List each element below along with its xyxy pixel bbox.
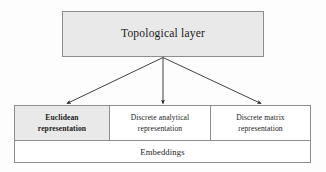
node-topological-layer[interactable]: Topological layer	[62, 11, 264, 57]
node-euclidean-representation-line2: representation	[38, 123, 86, 134]
node-discrete-matrix-representation-text: Discrete matrix representation	[236, 112, 285, 134]
node-embeddings[interactable]: Embeddings	[15, 141, 310, 162]
representation-row: Euclidean representation Discrete analyt…	[15, 106, 310, 141]
arrow-to-euclidean	[67, 58, 163, 104]
node-discrete-matrix-representation-line1: Discrete matrix	[236, 112, 285, 123]
node-discrete-analytical-representation[interactable]: Discrete analytical representation	[110, 106, 211, 140]
node-discrete-matrix-representation[interactable]: Discrete matrix representation	[211, 106, 310, 140]
arrow-to-discrete-matrix	[163, 58, 261, 104]
node-discrete-analytical-representation-line2: representation	[131, 123, 190, 134]
node-euclidean-representation[interactable]: Euclidean representation	[15, 106, 110, 140]
node-topological-layer-label: Topological layer	[121, 27, 205, 40]
representation-stack: Euclidean representation Discrete analyt…	[14, 105, 311, 163]
node-discrete-analytical-representation-text: Discrete analytical representation	[131, 112, 190, 134]
node-euclidean-representation-line1: Euclidean	[38, 112, 86, 123]
node-discrete-analytical-representation-line1: Discrete analytical	[131, 112, 190, 123]
diagram-canvas: Topological layer Euclidean representati…	[0, 0, 326, 172]
node-euclidean-representation-text: Euclidean representation	[38, 112, 86, 134]
node-embeddings-label: Embeddings	[140, 147, 184, 157]
node-discrete-matrix-representation-line2: representation	[236, 123, 285, 134]
